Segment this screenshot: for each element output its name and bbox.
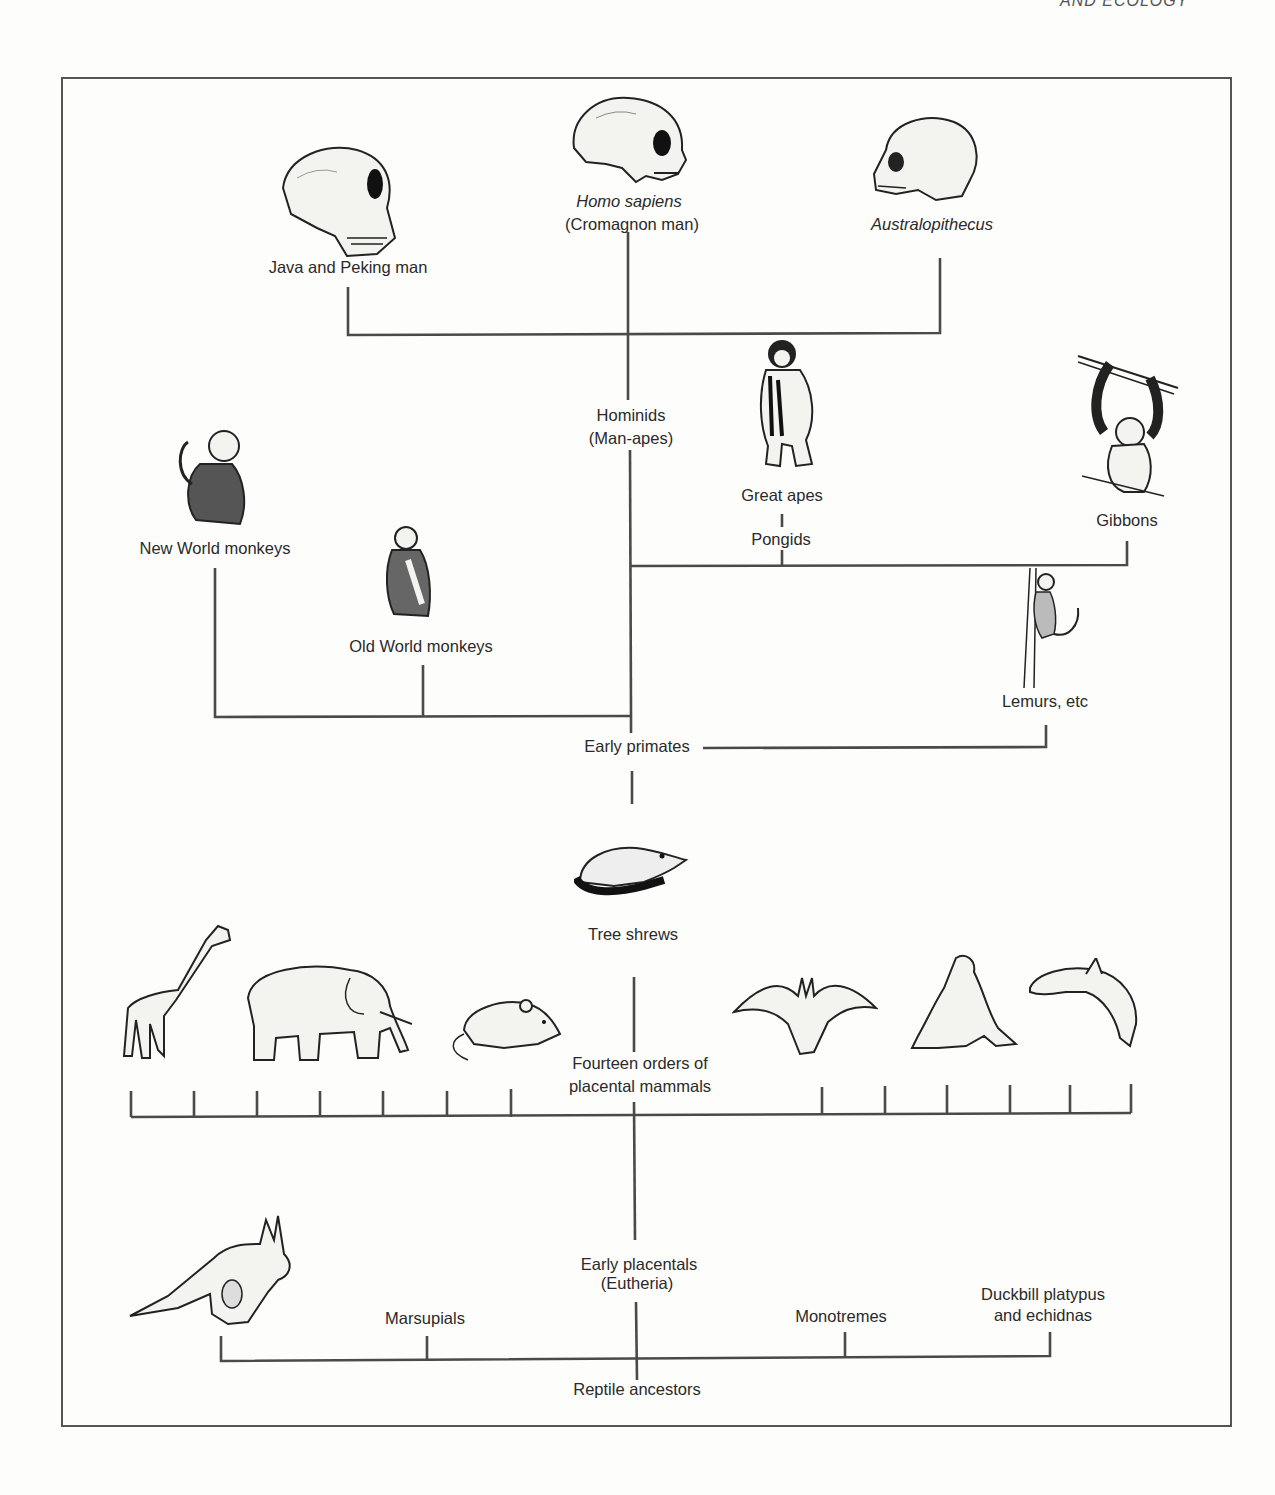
platypus-label: Duckbill platypus [981, 1283, 1105, 1305]
tree-shrew-icon [574, 838, 690, 896]
lemur-icon [1014, 568, 1086, 688]
marsupials-label: Marsupials [385, 1307, 465, 1329]
old-world-monkey-icon [384, 524, 434, 620]
old-world-monkeys-label: Old World monkeys [349, 635, 493, 657]
human-skull-icon [566, 88, 694, 188]
giraffe-icon [118, 920, 236, 1062]
kangaroo-icon [128, 1214, 302, 1326]
gibbon-icon [1074, 336, 1182, 498]
cromagnon-label: (Cromagnon man) [565, 213, 699, 235]
gibbons-label: Gibbons [1096, 509, 1157, 531]
elephant-icon [240, 958, 412, 1062]
placental-orders-label-1: Fourteen orders of [572, 1052, 708, 1074]
australopithecus-label: Australopithecus [871, 213, 993, 235]
bat-icon [732, 972, 878, 1058]
chimpanzee-icon [752, 336, 824, 470]
sea-lion-icon [908, 952, 1020, 1054]
tree-shrews-label: Tree shrews [588, 923, 678, 945]
homo-sapiens-label: Homo sapiens [576, 190, 681, 212]
echidnas-label: and echidnas [994, 1304, 1092, 1326]
placental-orders-label-2: placental mammals [569, 1075, 711, 1097]
early-primates-label: Early primates [584, 735, 689, 757]
reptile-ancestors-label: Reptile ancestors [573, 1378, 700, 1400]
dolphin-icon [1026, 958, 1144, 1050]
australopithecus-skull-icon [866, 110, 986, 206]
eutheria-label: (Eutheria) [601, 1272, 673, 1294]
great-apes-label: Great apes [741, 484, 823, 506]
pongids-label: Pongids [751, 528, 811, 550]
monotremes-label: Monotremes [795, 1305, 887, 1327]
man-apes-label: (Man-apes) [589, 427, 673, 449]
new-world-monkey-icon [172, 424, 252, 528]
new-world-monkeys-label: New World monkeys [140, 537, 291, 559]
erectus-skull-icon [277, 138, 415, 260]
lemurs-label: Lemurs, etc [1002, 690, 1088, 712]
java-peking-label: Java and Peking man [269, 256, 428, 278]
mouse-icon [444, 994, 566, 1062]
hominids-label: Hominids [597, 404, 666, 426]
